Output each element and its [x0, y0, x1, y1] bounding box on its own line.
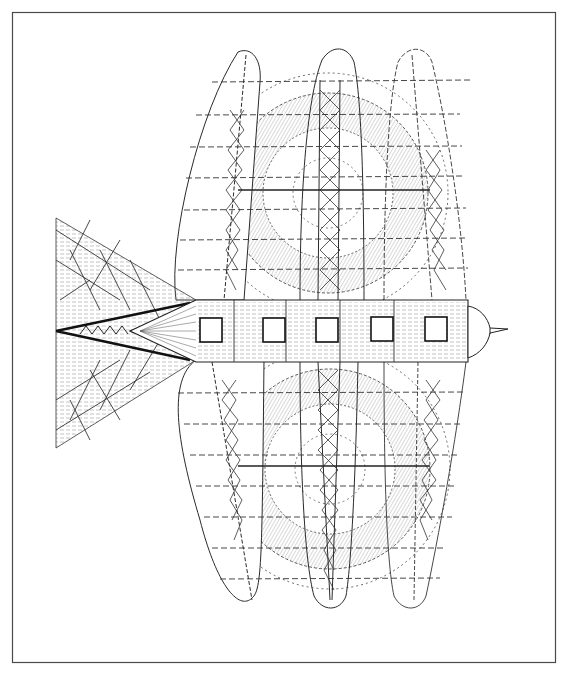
window-1	[200, 318, 222, 342]
window-5	[425, 317, 447, 341]
wing-rear-upper	[175, 51, 260, 300]
window-4	[371, 317, 393, 341]
aircraft-drawing	[0, 0, 566, 673]
fuselage	[130, 300, 468, 362]
wing-rear-lower	[178, 360, 264, 601]
nose-cone	[468, 306, 508, 358]
window-2	[263, 318, 285, 342]
window-3	[316, 318, 338, 342]
